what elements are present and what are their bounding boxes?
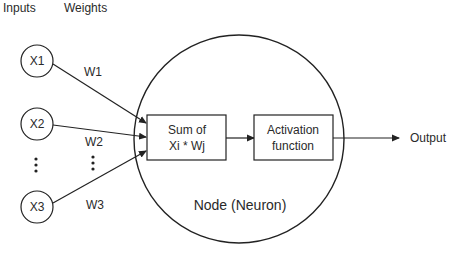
- input-x3-label: X3: [30, 200, 45, 214]
- weight-w3-label: W3: [86, 198, 104, 212]
- output-label: Output: [410, 131, 447, 145]
- sum-box-line2: Xi * Wj: [169, 139, 205, 153]
- sum-box: Sum of Xi * Wj: [147, 115, 226, 160]
- node-label: Node (Neuron): [194, 197, 287, 213]
- inputs-ellipsis: [34, 157, 37, 172]
- weights-ellipsis: [91, 155, 94, 170]
- weight-w1-label: W1: [84, 65, 102, 79]
- inputs-header: Inputs: [3, 1, 36, 15]
- input-x1: X1: [21, 45, 53, 77]
- connection-x3: [53, 151, 146, 203]
- input-x1-label: X1: [30, 54, 45, 68]
- input-x2: X2: [21, 108, 53, 140]
- activation-box-line1: Activation: [267, 123, 319, 137]
- neuron-diagram: Inputs Weights X1 X2 X3 W1 W2 W3 Sum of …: [0, 0, 470, 253]
- activation-box: Activation function: [254, 115, 333, 160]
- weights-header: Weights: [64, 1, 107, 15]
- input-x3: X3: [21, 191, 53, 223]
- input-x2-label: X2: [30, 117, 45, 131]
- activation-box-line2: function: [272, 139, 314, 153]
- sum-box-line1: Sum of: [168, 123, 207, 137]
- weight-w2-label: W2: [85, 135, 103, 149]
